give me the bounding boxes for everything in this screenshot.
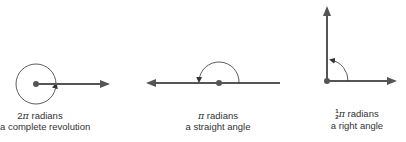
- unit-label: radians: [348, 108, 379, 119]
- caption-full-revolution: 2π radians a complete revolution: [0, 110, 80, 132]
- right-angle-arc: [331, 60, 348, 81]
- full-revolution-diagram: [16, 64, 108, 104]
- vertex-dot: [216, 80, 222, 86]
- vertex-dot: [324, 78, 330, 84]
- pi-symbol: π: [198, 110, 204, 121]
- angle-measure: π radians: [180, 110, 256, 121]
- angle-description: a straight angle: [180, 121, 256, 132]
- unit-label: radians: [207, 110, 238, 121]
- angle-measure: 2π radians: [0, 110, 80, 121]
- right-angle-diagram: [324, 8, 395, 84]
- caption-right-angle: 12π radians a right angle: [322, 108, 392, 131]
- vertex-dot: [33, 81, 39, 87]
- straight-angle-diagram: [148, 62, 280, 86]
- caption-straight-angle: π radians a straight angle: [180, 110, 256, 132]
- angle-description: a right angle: [322, 120, 392, 131]
- pi-symbol: π: [23, 110, 29, 121]
- angle-measure: 12π radians: [322, 108, 392, 120]
- angle-description: a complete revolution: [0, 121, 80, 132]
- unit-label: radians: [32, 110, 63, 121]
- straight-angle-arc: [199, 62, 239, 83]
- pi-symbol: π: [339, 108, 345, 119]
